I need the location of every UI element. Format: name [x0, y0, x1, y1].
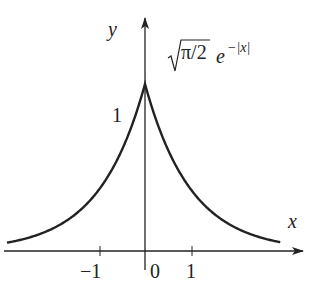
formula-coefficient: π/2 — [181, 41, 207, 64]
y-axis-label: y — [108, 18, 117, 41]
chart-figure: y x 1 −1 0 1 π/2 e −|x| — [0, 0, 311, 292]
curve-series — [7, 84, 280, 243]
chart-canvas — [0, 0, 311, 292]
x-tick-label-neg1: −1 — [80, 260, 101, 283]
formula-exponent: −|x| — [227, 40, 250, 56]
y-tick-label-1: 1 — [112, 104, 122, 127]
x-tick-label-1: 1 — [186, 260, 196, 283]
formula-base: e — [216, 45, 225, 68]
x-tick-label-0: 0 — [150, 260, 160, 283]
x-axis-label: x — [288, 210, 297, 233]
